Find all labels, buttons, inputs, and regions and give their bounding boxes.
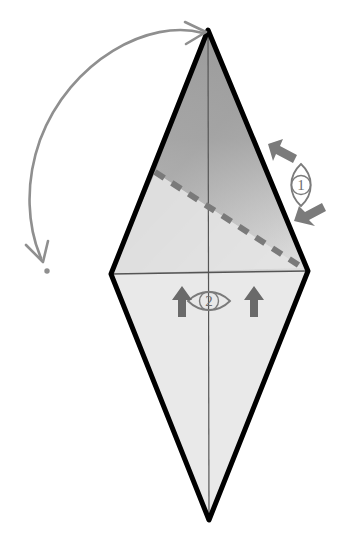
kite-body: [111, 30, 308, 520]
marker-2-label: 2: [205, 293, 213, 309]
arrow-icon-1-upper: [268, 139, 297, 163]
marker-1-label: 1: [297, 177, 305, 193]
rotation-arrow-end-dot: [44, 268, 49, 273]
origami-diagram-canvas: 1 2: [0, 0, 339, 542]
origami-diagram: 1 2: [0, 0, 339, 542]
arrow-icon-1-lower: [294, 203, 326, 226]
